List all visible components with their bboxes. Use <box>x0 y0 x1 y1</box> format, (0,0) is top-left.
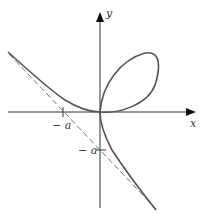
x-axis-label: x <box>190 117 197 130</box>
folium-diagram: y x − a − a <box>0 0 205 218</box>
curve-left-branch <box>8 52 100 112</box>
x-tick-label-neg-a: − a <box>52 119 71 132</box>
asymptote-line <box>9 54 157 210</box>
curve-loop <box>100 53 159 113</box>
x-axis-arrow-icon <box>186 108 196 116</box>
curve-lower-branch <box>100 112 156 210</box>
y-tick-label-neg-a: − a <box>78 144 97 157</box>
y-axis-label: y <box>105 7 113 20</box>
y-axis-arrow-icon <box>96 12 104 22</box>
